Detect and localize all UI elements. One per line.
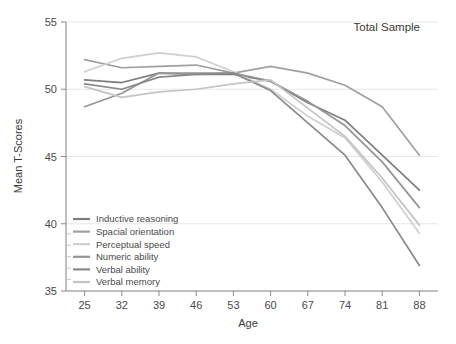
chart-legend: Inductive reasoningSpacial orientationPe…: [73, 213, 178, 287]
legend-label-5: Verbal memory: [96, 276, 160, 287]
x-tick-label-46: 46: [190, 299, 202, 311]
legend-label-3: Numeric ability: [96, 251, 159, 262]
series-line-spacial-orientation: [85, 60, 420, 155]
y-axis-title: Mean T-Scores: [12, 118, 24, 193]
x-tick-label-81: 81: [376, 299, 388, 311]
y-tick-label-55: 55: [45, 16, 57, 28]
x-tick-label-60: 60: [264, 299, 276, 311]
panel-title: Total Sample: [354, 21, 420, 33]
series-line-verbal-memory: [85, 80, 420, 225]
x-axis-title: Age: [238, 317, 258, 329]
x-tick-label-88: 88: [413, 299, 425, 311]
chart-figure: 354045505525323946536067748188 Inductive…: [0, 0, 456, 344]
legend-label-0: Inductive reasoning: [96, 213, 178, 224]
line-chart: 354045505525323946536067748188 Inductive…: [0, 0, 456, 344]
legend-label-1: Spacial orientation: [96, 226, 174, 237]
legend-label-4: Verbal ability: [96, 264, 150, 275]
series-line-inductive-reasoning: [85, 73, 420, 190]
y-tick-label-45: 45: [45, 151, 57, 163]
series-line-numeric-ability: [85, 73, 420, 208]
x-tick-label-74: 74: [339, 299, 351, 311]
x-tick-label-25: 25: [78, 299, 90, 311]
x-tick-label-39: 39: [153, 299, 165, 311]
legend-label-2: Perceptual speed: [96, 239, 170, 250]
y-tick-label-35: 35: [45, 285, 57, 297]
x-tick-label-53: 53: [227, 299, 239, 311]
x-tick-label-32: 32: [116, 299, 128, 311]
x-tick-label-67: 67: [302, 299, 314, 311]
y-tick-label-40: 40: [45, 218, 57, 230]
y-tick-label-50: 50: [45, 83, 57, 95]
